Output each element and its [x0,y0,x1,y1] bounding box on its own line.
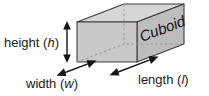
width-dimension-arrow [57,60,97,76]
length-label-word: length [138,72,173,87]
width-label: width (w) [25,76,78,91]
length-arrow-head-left [110,68,120,76]
cuboid-figure: Cuboid height (h) width (w) length (l) [0,0,209,96]
height-label: height (h) [4,35,59,50]
width-label-word: width [25,76,56,91]
height-dimension-arrow [63,21,71,63]
width-arrow-shaft [63,63,91,74]
height-arrow-head-up [63,21,71,30]
width-arrow-head-right [87,60,97,68]
cuboid-front-face [77,22,137,62]
cuboid-diagram-svg: Cuboid height (h) width (w) length (l) [0,0,209,96]
width-arrow-head-left [57,68,67,76]
height-label-close-paren: ) [55,35,59,50]
length-label: length (l) [138,72,189,87]
height-label-symbol: h [47,35,54,50]
height-arrow-head-down [63,55,71,64]
length-label-close-paren: ) [184,72,188,87]
height-label-word: height [4,35,40,50]
width-label-close-paren: ) [74,76,78,91]
length-arrow-head-right [149,56,159,64]
